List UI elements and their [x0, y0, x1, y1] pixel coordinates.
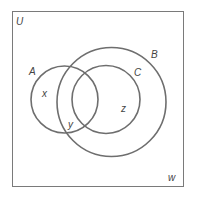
region-w-label: w [168, 172, 176, 183]
region-z-label: z [120, 103, 126, 114]
region-y-label: y [67, 119, 74, 130]
set-a-circle [31, 66, 98, 133]
set-b-circle [57, 48, 166, 157]
region-x-label: x [41, 88, 48, 99]
set-b-label: B [151, 49, 158, 60]
set-c-circle [72, 66, 140, 134]
venn-diagram: U A B C x y z w [0, 0, 197, 197]
universe-label: U [16, 16, 24, 27]
set-a-label: A [28, 66, 36, 77]
set-c-label: C [134, 67, 142, 78]
